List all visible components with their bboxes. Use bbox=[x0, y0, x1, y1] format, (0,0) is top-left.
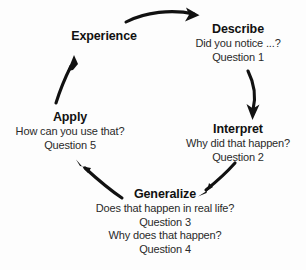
node-generalize-line-4: Question 4 bbox=[96, 243, 235, 257]
node-experience-title: Experience bbox=[71, 29, 137, 44]
experiential-learning-cycle-diagram: Experience Describe Did you notice ...? … bbox=[0, 0, 306, 270]
node-experience: Experience bbox=[71, 29, 137, 44]
node-describe-line-2: Question 1 bbox=[195, 51, 280, 65]
node-apply-line-2: Question 5 bbox=[16, 139, 125, 153]
node-generalize-line-1: Does that happen in real life? bbox=[96, 202, 235, 216]
node-interpret: Interpret Why did that happen? Question … bbox=[186, 122, 290, 164]
node-interpret-title: Interpret bbox=[186, 122, 290, 137]
node-generalize-line-2: Question 3 bbox=[96, 216, 235, 230]
node-generalize-line-3: Why does that happen? bbox=[96, 229, 235, 243]
node-describe-title: Describe bbox=[195, 22, 280, 37]
node-apply-line-1: How can you use that? bbox=[16, 125, 125, 139]
node-describe: Describe Did you notice ...? Question 1 bbox=[195, 22, 280, 64]
node-describe-line-1: Did you notice ...? bbox=[195, 37, 280, 51]
node-generalize: Generalize Does that happen in real life… bbox=[96, 187, 235, 256]
node-generalize-title: Generalize bbox=[96, 187, 235, 202]
arrow-describe-to-interpret bbox=[247, 71, 260, 120]
node-interpret-line-1: Why did that happen? bbox=[186, 137, 290, 151]
arrow-experience-to-describe bbox=[126, 8, 200, 23]
arrow-apply-to-experience bbox=[56, 55, 78, 103]
node-interpret-line-2: Question 2 bbox=[186, 151, 290, 165]
node-apply-title: Apply bbox=[16, 110, 125, 125]
node-apply: Apply How can you use that? Question 5 bbox=[16, 110, 125, 152]
